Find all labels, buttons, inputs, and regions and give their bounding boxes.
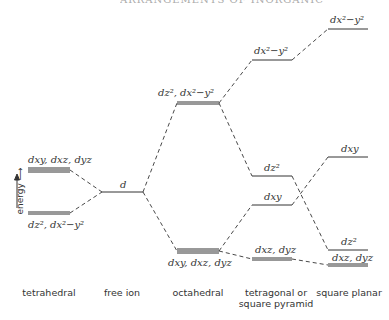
level-label-octahedral-lower: dxy, dxz, dyz — [168, 258, 232, 268]
caption-octahedral: octahedral — [168, 287, 228, 298]
level-label-tetragonal-dx2y2: dx²−y² — [254, 46, 288, 56]
level-label-octahedral-upper: dz², dx²−y² — [158, 88, 214, 98]
level-label-square-planar-dxz-dyz: dxz, dyz — [332, 253, 373, 263]
caption-tetragonal-line2: square pyramid — [236, 298, 316, 309]
level-label-free-ion: d — [120, 180, 126, 190]
energy-axis-label: energy ⟶ — [15, 167, 25, 214]
caption-tetrahedral: tetrahedral — [14, 287, 84, 298]
level-label-tetrahedral-lower: dz², dx²−y² — [28, 220, 84, 230]
level-label-tetragonal-dz2: dz² — [264, 163, 280, 173]
level-label-square-planar-dxy: dxy — [341, 144, 359, 154]
caption-square-planar: square planar — [314, 287, 384, 298]
caption-free-ion: free ion — [94, 287, 150, 298]
level-label-tetragonal-dxy: dxy — [264, 192, 282, 202]
level-label-tetrahedral-upper: dxy, dxz, dyz — [28, 155, 92, 165]
level-label-tetragonal-dxz-dyz: dxz, dyz — [255, 245, 296, 255]
caption-tetragonal-line1: tetragonal or — [236, 287, 316, 298]
level-label-square-planar-dz2: dz² — [341, 237, 357, 247]
level-label-square-planar-dx2y2: dx²−y² — [330, 15, 364, 25]
caption-tetragonal-or-square-pyramid: tetragonal or square pyramid — [236, 287, 316, 310]
